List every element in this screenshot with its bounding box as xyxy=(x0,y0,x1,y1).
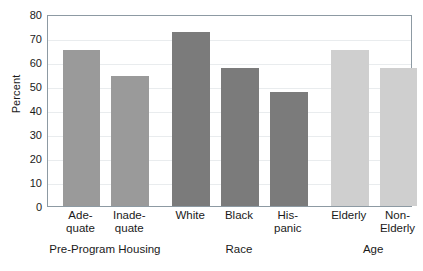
category-label-line1: His- xyxy=(278,209,298,221)
bar xyxy=(172,32,210,206)
category-label-line1: Inade- xyxy=(113,209,146,221)
y-tick-label: 40 xyxy=(30,106,42,117)
y-tick-label: 60 xyxy=(30,58,42,69)
category-labels: Ade-quateInade-quateWhiteBlackHis-panicE… xyxy=(47,209,412,243)
bar xyxy=(380,68,418,206)
bar-chart-figure: Percent 01020304050607080 Ade-quateInade… xyxy=(0,0,423,271)
category-label: Non-Elderly xyxy=(358,209,423,235)
y-tick-label: 50 xyxy=(30,82,42,93)
bar-series xyxy=(48,16,411,206)
y-tick-label: 80 xyxy=(30,10,42,21)
group-labels: Pre-Program HousingRaceAge xyxy=(47,243,412,259)
plot-area xyxy=(47,15,412,207)
y-tick-label: 10 xyxy=(30,178,42,189)
category-label-line2: Elderly xyxy=(358,222,423,235)
category-label-line1: Non- xyxy=(385,209,410,221)
category-label-line2: panic xyxy=(248,222,328,235)
bar xyxy=(63,50,101,206)
bar xyxy=(331,50,369,206)
y-axis-title: Percent xyxy=(10,54,22,134)
bar xyxy=(221,68,259,206)
group-label: Age xyxy=(283,243,423,256)
category-label-line2: quate xyxy=(89,222,169,235)
y-tick-label: 70 xyxy=(30,34,42,45)
y-tick-label: 30 xyxy=(30,130,42,141)
bar xyxy=(111,76,149,206)
bar xyxy=(270,92,308,206)
y-tick-label: 20 xyxy=(30,154,42,165)
y-axis-tick-labels: 01020304050607080 xyxy=(22,15,42,207)
